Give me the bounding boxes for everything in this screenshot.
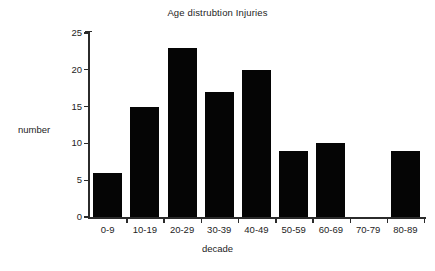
x-axis-tick [312, 217, 313, 223]
y-axis-tick-label: 15 [58, 101, 82, 113]
x-axis-tick-label: 70-79 [350, 224, 387, 235]
x-axis-tick [163, 217, 164, 223]
bar [279, 151, 308, 217]
bar [391, 151, 420, 217]
y-axis-line [88, 31, 90, 219]
x-axis-line [88, 217, 426, 219]
y-axis-tick-label: 5 [58, 174, 82, 186]
x-axis-tick-label: 30-39 [201, 224, 238, 235]
x-axis-tick-label: 80-89 [387, 224, 424, 235]
x-axis-tick-label: 0-9 [89, 224, 126, 235]
y-axis-tick-label-text: 5 [60, 174, 82, 185]
x-axis-tick [238, 217, 239, 223]
x-axis-tick-label: 10-19 [126, 224, 163, 235]
x-axis-tick-label: 50-59 [275, 224, 312, 235]
x-axis-tick-label: 60-69 [312, 224, 349, 235]
bar [242, 70, 271, 217]
y-axis-tick-label: 10 [58, 137, 82, 149]
bar [168, 48, 197, 217]
x-axis-tick [350, 217, 351, 223]
bar [130, 107, 159, 217]
y-axis-tick [84, 69, 90, 70]
x-axis-tick-label: 20-29 [163, 224, 200, 235]
y-axis-tick [84, 216, 90, 217]
y-axis-tick-label-text: 20 [60, 64, 82, 75]
bar [316, 143, 345, 217]
y-axis-tick [84, 143, 90, 144]
y-axis-tick-label: 0 [58, 211, 82, 223]
x-axis-title: decade [0, 243, 435, 254]
bar [93, 173, 122, 217]
y-axis-tick-label-text: 15 [60, 101, 82, 112]
y-axis-tick-label-text: 25 [60, 27, 82, 38]
x-axis-tick [126, 217, 127, 223]
bar [205, 92, 234, 217]
x-axis-tick-label: 40-49 [238, 224, 275, 235]
y-axis-tick-label: 20 [58, 64, 82, 76]
x-axis-tick [201, 217, 202, 223]
x-axis-tick [275, 217, 276, 223]
x-axis-tick [387, 217, 388, 223]
y-axis-tick [84, 32, 90, 33]
y-axis-tick [84, 180, 90, 181]
chart-title: Age distrubtion Injuries [0, 7, 435, 18]
x-axis-tick [424, 217, 425, 223]
y-axis-tick [84, 106, 90, 107]
bar-chart-figure: Age distrubtion Injuries number decade 0… [0, 0, 435, 271]
y-axis-title: number [18, 124, 50, 135]
y-axis-tick-label-text: 0 [60, 211, 82, 222]
y-axis-tick-label-text: 10 [60, 137, 82, 148]
y-axis-tick-label: 25 [58, 27, 82, 39]
